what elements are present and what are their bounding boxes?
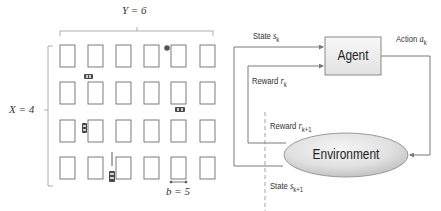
y-dimension-label: Y = 6 [122, 4, 147, 16]
grid-cell-r2-c3 [116, 82, 131, 104]
grid-cell-r3-c6 [200, 120, 215, 142]
grid-cell-r1-c5 [171, 45, 186, 67]
vehicle-4 [109, 152, 115, 182]
agent-label: Agent [329, 47, 377, 63]
grid-cell-r2-c4 [144, 82, 159, 104]
state-label: State sk [253, 30, 279, 43]
grid-cell-r1-c2 [88, 45, 103, 67]
grid-cell-r3-c5 [171, 120, 186, 142]
vehicle-1 [84, 74, 93, 79]
grid-cell-r4-c6 [200, 157, 215, 179]
x-dimension-brace [44, 46, 53, 186]
grid-panel [0, 0, 441, 211]
grid-cell-r3-c1 [60, 120, 75, 142]
x-dimension-label: X = 4 [9, 103, 34, 115]
grid-cell-r1-c1 [60, 45, 75, 67]
vehicle-2 [175, 107, 185, 112]
environment-label: Environment [293, 146, 398, 162]
next-reward-label: Reward rk+1 [270, 120, 312, 133]
grid-cell-r1-c4 [144, 45, 159, 67]
action-label: Action ak [396, 33, 427, 46]
vehicle-3 [82, 123, 87, 133]
grid-cell-r3-c4 [144, 120, 159, 142]
grid-cell-r4-c5 [171, 157, 186, 179]
grid-cell-r2-c5 [171, 82, 186, 104]
y-dimension-brace [60, 27, 213, 36]
figure: Y = 6 X = 4 b = 5 Agent Environment Stat… [0, 0, 441, 211]
grid-cell-r4-c2 [88, 157, 103, 179]
grid-cell-r3-c3 [116, 120, 131, 142]
b-dimension-arrow [170, 181, 187, 183]
grid-cell-r1-c6 [200, 45, 215, 67]
grid-cell-r2-c2 [88, 82, 103, 104]
b-dimension-label: b = 5 [166, 185, 190, 197]
grid-cell-r2-c6 [200, 82, 215, 104]
grid-cell-r3-c2 [88, 120, 103, 142]
grid-cell-r4-c3 [116, 157, 131, 179]
grid-cells [60, 45, 215, 179]
grid-cell-r4-c4 [144, 157, 159, 179]
next-state-label: State sk+1 [270, 180, 303, 193]
grid-cell-r2-c1 [60, 82, 75, 104]
target-marker [164, 45, 170, 51]
grid-cell-r1-c3 [116, 45, 131, 67]
grid-cell-r4-c1 [60, 157, 75, 179]
reward-label: Reward rk [252, 75, 287, 88]
